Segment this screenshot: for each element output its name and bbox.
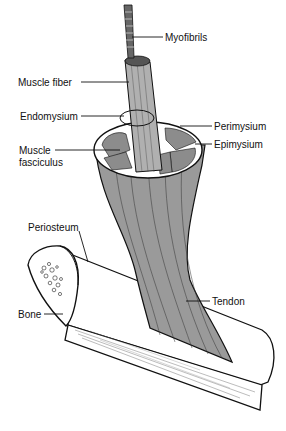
muscle-anatomy-diagram: Myofibrils Muscle fiber Endomysium Perim…	[0, 0, 286, 431]
label-myofibrils: Myofibrils	[165, 32, 207, 43]
myofibril	[124, 5, 134, 58]
label-muscle-fiber: Muscle fiber	[18, 77, 72, 88]
label-tendon: Tendon	[212, 296, 245, 307]
label-muscle-fasciculus-line1: Muscle	[19, 145, 51, 156]
label-periosteum: Periosteum	[28, 222, 79, 233]
label-muscle-fasciculus-line2: fasciculus	[19, 157, 63, 168]
label-perimysium: Perimysium	[214, 121, 266, 132]
label-epimysium: Epimysium	[214, 139, 263, 150]
label-bone: Bone	[18, 309, 41, 320]
diagram-illustration	[0, 0, 286, 431]
label-endomysium: Endomysium	[20, 111, 78, 122]
